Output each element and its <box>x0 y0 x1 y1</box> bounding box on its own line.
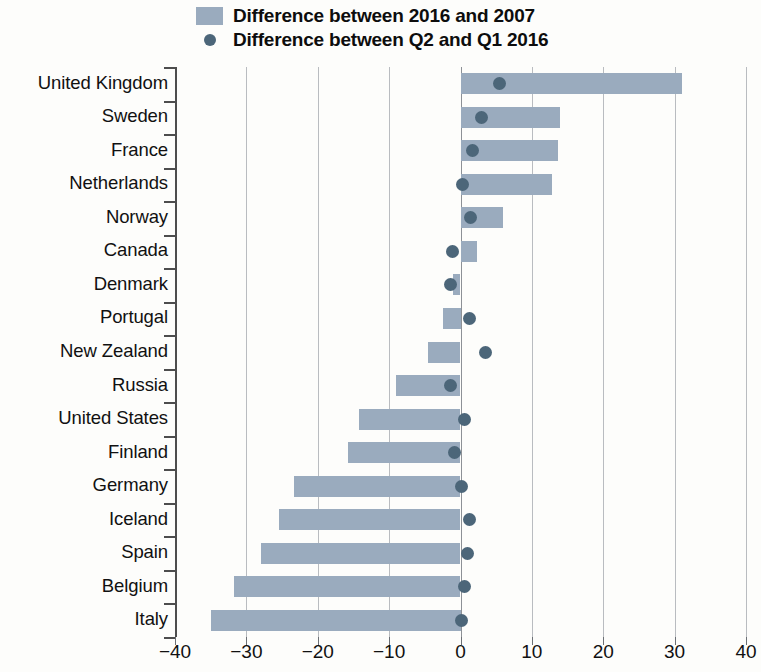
horizontal-bar-chart: Difference between 2016 and 2007 Differe… <box>0 0 761 672</box>
bar <box>443 308 461 329</box>
y-axis-category-label: New Zealand <box>0 340 168 362</box>
x-axis-label--30: −30 <box>230 641 262 663</box>
y-axis-tick <box>164 570 175 572</box>
legend-label-dot: Difference between Q2 and Q1 2016 <box>233 29 548 51</box>
y-axis-category-label: Belgium <box>0 575 168 597</box>
y-axis-tick <box>164 536 175 538</box>
data-point-dot <box>458 413 471 426</box>
x-axis-label-0: 0 <box>455 641 466 663</box>
legend-entry-bar: Difference between 2016 and 2007 <box>196 4 548 28</box>
y-axis-tick <box>164 469 175 471</box>
bar <box>461 174 552 195</box>
gridline-20 <box>603 67 604 637</box>
x-axis-label--20: −20 <box>302 641 334 663</box>
data-point-dot <box>446 245 459 258</box>
y-axis-category-label: Netherlands <box>0 172 168 194</box>
y-axis-tick <box>164 168 175 170</box>
y-axis-tick <box>164 67 175 69</box>
y-axis-tick <box>164 134 175 136</box>
x-axis-label-40: 40 <box>735 641 756 663</box>
y-axis-tick <box>164 101 175 103</box>
y-axis-tick <box>164 235 175 237</box>
data-point-dot <box>455 480 468 493</box>
y-axis-category-label: Germany <box>0 474 168 496</box>
bar <box>211 610 461 631</box>
bar <box>428 342 460 363</box>
x-axis-label-20: 20 <box>593 641 614 663</box>
y-axis-tick <box>164 402 175 404</box>
gridline-40 <box>746 67 747 637</box>
data-point-dot <box>461 547 474 560</box>
data-point-dot <box>463 312 476 325</box>
data-point-dot <box>455 614 468 627</box>
y-axis-category-label: Norway <box>0 206 168 228</box>
y-axis-line <box>175 67 177 637</box>
bar <box>279 509 460 530</box>
bar <box>261 543 461 564</box>
y-axis-tick <box>164 603 175 605</box>
y-axis-category-label: Finland <box>0 441 168 463</box>
y-axis-category-label: Italy <box>0 608 168 630</box>
y-axis-tick <box>164 637 175 639</box>
data-point-dot <box>456 178 469 191</box>
y-axis-category-label: Canada <box>0 239 168 261</box>
y-axis-category-label: France <box>0 139 168 161</box>
gridline-30 <box>675 67 676 637</box>
bar <box>348 442 460 463</box>
bar <box>234 576 460 597</box>
y-axis-category-label: Spain <box>0 541 168 563</box>
x-axis-label--40: −40 <box>159 641 191 663</box>
y-axis-category-label: Sweden <box>0 105 168 127</box>
legend-entry-dot: Difference between Q2 and Q1 2016 <box>196 28 548 52</box>
y-axis-tick <box>164 436 175 438</box>
y-axis-tick <box>164 369 175 371</box>
x-axis-label-30: 30 <box>664 641 685 663</box>
y-axis-category-label: Portugal <box>0 306 168 328</box>
y-axis-tick <box>164 201 175 203</box>
bar <box>294 476 460 497</box>
y-axis-tick <box>164 302 175 304</box>
bar <box>359 409 460 430</box>
bar <box>461 241 477 262</box>
legend-dot-icon <box>196 31 223 49</box>
plot-area <box>175 67 746 637</box>
y-axis-category-label: Denmark <box>0 273 168 295</box>
data-point-dot <box>458 580 471 593</box>
legend-label-bar: Difference between 2016 and 2007 <box>233 5 535 27</box>
gridline--30 <box>246 67 247 637</box>
data-point-dot <box>463 513 476 526</box>
y-axis-category-label: Iceland <box>0 508 168 530</box>
y-axis-category-label: United States <box>0 407 168 429</box>
chart-legend: Difference between 2016 and 2007 Differe… <box>196 4 548 52</box>
legend-bar-swatch-icon <box>196 7 223 25</box>
data-point-dot <box>479 346 492 359</box>
y-axis-category-label: United Kingdom <box>0 72 168 94</box>
y-axis-tick <box>164 335 175 337</box>
y-axis-tick <box>164 503 175 505</box>
y-axis-category-label: Russia <box>0 374 168 396</box>
data-point-dot <box>444 379 457 392</box>
x-axis-label-10: 10 <box>521 641 542 663</box>
x-axis-label--10: −10 <box>373 641 405 663</box>
y-axis-tick <box>164 268 175 270</box>
